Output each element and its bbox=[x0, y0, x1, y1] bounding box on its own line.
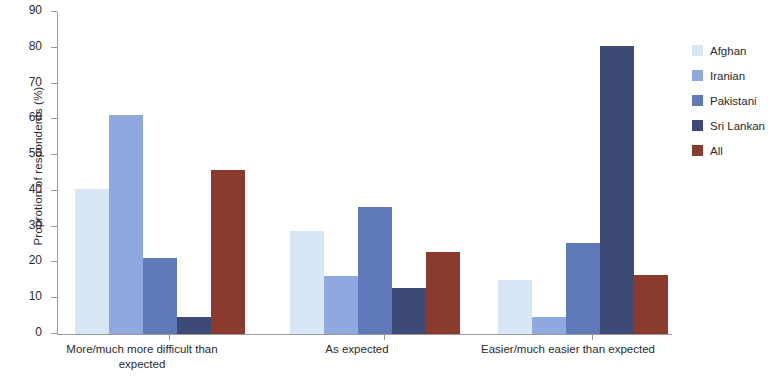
legend-label: Iranian bbox=[710, 70, 745, 82]
bar bbox=[143, 258, 177, 334]
bar bbox=[634, 275, 668, 334]
bar bbox=[600, 46, 634, 334]
y-axis-tick: 30 bbox=[51, 226, 57, 227]
bar bbox=[177, 317, 211, 334]
y-axis-tick: 20 bbox=[51, 261, 57, 262]
plot-area: 0102030405060708090 bbox=[57, 12, 672, 334]
x-axis-tick bbox=[592, 334, 593, 340]
bar bbox=[566, 243, 600, 334]
x-axis-category-label-line: Easier/much easier than expected bbox=[448, 342, 688, 357]
legend: AfghanIranianPakistaniSri LankanAll bbox=[692, 38, 782, 163]
bar bbox=[75, 189, 109, 334]
legend-label: All bbox=[710, 145, 723, 157]
bar bbox=[109, 115, 143, 334]
bar bbox=[211, 170, 245, 334]
legend-label: Afghan bbox=[710, 45, 746, 57]
bar bbox=[426, 252, 460, 334]
y-axis-tick-label: 0 bbox=[35, 325, 42, 339]
legend-item[interactable]: Sri Lankan bbox=[692, 113, 782, 138]
y-axis-tick-label: 10 bbox=[29, 289, 42, 303]
legend-label: Pakistani bbox=[710, 95, 757, 107]
y-axis-tick-label: 80 bbox=[29, 39, 42, 53]
y-axis-tick-label: 70 bbox=[29, 75, 42, 89]
legend-swatch-icon bbox=[692, 120, 703, 131]
x-axis-category-label: As expected bbox=[237, 342, 477, 357]
y-axis-tick-label: 50 bbox=[29, 146, 42, 160]
y-axis-tick-label: 30 bbox=[29, 218, 42, 232]
y-axis-tick-label: 40 bbox=[29, 182, 42, 196]
bar bbox=[358, 207, 392, 334]
bar bbox=[392, 288, 426, 334]
bar bbox=[498, 280, 532, 334]
legend-item[interactable]: Afghan bbox=[692, 38, 782, 63]
legend-item[interactable]: Iranian bbox=[692, 63, 782, 88]
legend-swatch-icon bbox=[692, 45, 703, 56]
bar-chart: Proprotion of respondents (%) 0102030405… bbox=[0, 0, 783, 378]
y-axis-tick: 60 bbox=[51, 118, 57, 119]
legend-swatch-icon bbox=[692, 145, 703, 156]
x-axis-category-label: Easier/much easier than expected bbox=[448, 342, 688, 357]
y-axis-tick-label: 90 bbox=[29, 3, 42, 17]
bar bbox=[324, 276, 358, 334]
bar bbox=[532, 317, 566, 334]
x-axis-category-label-line: As expected bbox=[237, 342, 477, 357]
y-axis-tick: 90 bbox=[51, 11, 57, 12]
legend-swatch-icon bbox=[692, 95, 703, 106]
y-axis-tick: 0 bbox=[51, 333, 57, 334]
x-axis-category-label-line: expected bbox=[22, 357, 262, 372]
x-axis-line bbox=[57, 334, 672, 335]
y-axis-line bbox=[57, 12, 58, 334]
y-axis-tick: 50 bbox=[51, 154, 57, 155]
legend-swatch-icon bbox=[692, 70, 703, 81]
y-axis-tick: 80 bbox=[51, 47, 57, 48]
x-axis-tick bbox=[384, 334, 385, 340]
bar bbox=[290, 231, 324, 334]
x-axis-tick bbox=[169, 334, 170, 340]
legend-label: Sri Lankan bbox=[710, 120, 765, 132]
y-axis-tick-label: 20 bbox=[29, 253, 42, 267]
y-axis-tick: 10 bbox=[51, 297, 57, 298]
x-axis-category-label: More/much more difficult thanexpected bbox=[22, 342, 262, 372]
x-axis-category-label-line: More/much more difficult than bbox=[22, 342, 262, 357]
y-axis-tick: 70 bbox=[51, 83, 57, 84]
y-axis-tick-label: 60 bbox=[29, 110, 42, 124]
y-axis-tick: 40 bbox=[51, 190, 57, 191]
legend-item[interactable]: Pakistani bbox=[692, 88, 782, 113]
legend-item[interactable]: All bbox=[692, 138, 782, 163]
